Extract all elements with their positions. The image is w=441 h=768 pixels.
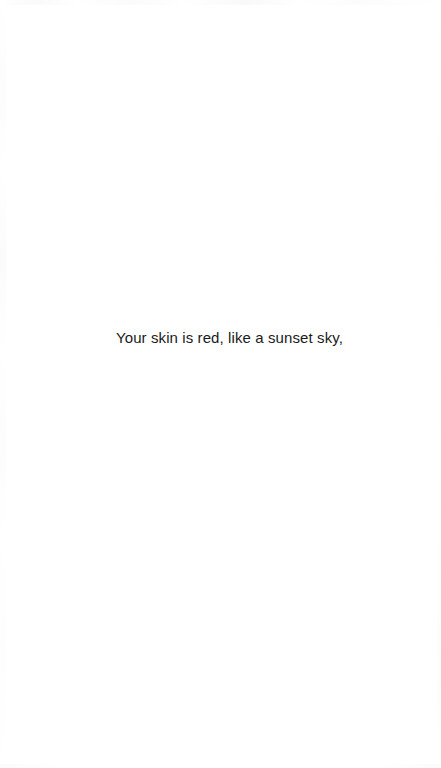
scan-artifact-right-edge xyxy=(437,0,441,768)
scan-artifact-top-edge xyxy=(0,0,441,5)
body-text-block: Your skin is red, like a sunset sky, xyxy=(0,328,441,348)
scan-artifact-bottom-edge xyxy=(0,764,441,768)
scan-artifact-left-edge xyxy=(0,0,6,768)
scanned-page: Your skin is red, like a sunset sky, xyxy=(0,0,441,768)
poem-line: Your skin is red, like a sunset sky, xyxy=(98,328,343,348)
